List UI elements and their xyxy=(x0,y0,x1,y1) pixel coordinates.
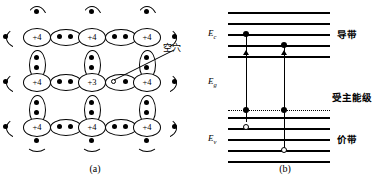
electron xyxy=(34,55,39,60)
electron xyxy=(89,100,94,105)
conduction-band-line xyxy=(228,12,330,14)
lattice-core: +4 xyxy=(133,118,161,137)
electron xyxy=(68,79,73,84)
electron xyxy=(89,110,94,115)
hole-leader-line xyxy=(112,48,192,88)
electron xyxy=(3,79,8,84)
electron xyxy=(112,124,117,129)
electron xyxy=(57,34,62,39)
energy-band-diagram: Ec Eg Ev xyxy=(190,0,380,150)
electron xyxy=(144,110,149,115)
acceptor-level-label: 受主能级 xyxy=(332,90,372,104)
lattice-core: +4 xyxy=(133,28,161,47)
valence-band-label: 价带 xyxy=(337,132,357,146)
energy-label-ev: Ev xyxy=(208,133,216,145)
lattice-core: +4 xyxy=(23,118,51,137)
outer-arc-left xyxy=(6,72,22,94)
outer-arc-left xyxy=(6,27,22,49)
electron xyxy=(144,9,149,14)
panel-a-caption: (a) xyxy=(0,163,190,174)
electron xyxy=(68,34,73,39)
electron xyxy=(57,79,62,84)
conduction-band-label: 导带 xyxy=(337,27,357,41)
electron xyxy=(57,124,62,129)
lattice-diagram: +4 +4 +4 +4 xyxy=(0,0,190,150)
electron-dot-conduction-right xyxy=(281,42,287,48)
electron xyxy=(89,138,94,143)
electron xyxy=(3,34,8,39)
figure-container: +4 +4 +4 +4 xyxy=(0,0,380,176)
energy-label-ec: Ec xyxy=(208,28,216,40)
panel-a-lattice: +4 +4 +4 +4 xyxy=(0,0,190,176)
hole-dot-valence-left xyxy=(243,124,249,130)
electron xyxy=(3,124,8,129)
ev-subscript: v xyxy=(214,138,217,145)
hole-annotation-label: 空穴 xyxy=(163,41,181,54)
electron xyxy=(34,110,39,115)
electron xyxy=(172,34,177,39)
electron xyxy=(144,100,149,105)
conduction-band-line xyxy=(228,23,330,25)
electron xyxy=(34,138,39,143)
electron xyxy=(123,124,128,129)
eg-subscript: g xyxy=(214,81,217,88)
electron xyxy=(112,34,117,39)
ec-subscript: c xyxy=(214,33,217,40)
electron-dot-acceptor-right xyxy=(281,107,287,113)
electron-dot-acceptor-left xyxy=(243,107,249,113)
lattice-core: +4 xyxy=(78,28,106,47)
electron xyxy=(34,100,39,105)
lattice-core-dopant: +3 xyxy=(78,73,106,92)
valence-band-edge-line xyxy=(228,139,330,141)
electron xyxy=(34,65,39,70)
electron xyxy=(89,65,94,70)
valence-band-line xyxy=(228,150,330,152)
electron xyxy=(144,138,149,143)
electron xyxy=(68,124,73,129)
lattice-core: +4 xyxy=(23,28,51,47)
electron-dot-conduction-left xyxy=(243,31,249,37)
transition-arrowhead-right xyxy=(281,50,287,55)
energy-label-eg: Eg xyxy=(208,76,217,88)
valence-band-line xyxy=(228,117,330,119)
electron xyxy=(89,9,94,14)
electron xyxy=(34,9,39,14)
lattice-core: +4 xyxy=(78,118,106,137)
electron xyxy=(89,55,94,60)
conduction-band-line xyxy=(228,45,330,47)
hole-dot-valence-right xyxy=(281,147,287,153)
panel-b-caption: (b) xyxy=(190,163,380,174)
transition-arrowhead-left xyxy=(243,50,249,55)
electron xyxy=(123,34,128,39)
outer-arc-left xyxy=(6,117,22,139)
transition-line-right xyxy=(284,46,285,151)
panel-b-bands: Ec Eg Ev xyxy=(190,0,380,176)
lattice-core: +4 xyxy=(23,73,51,92)
conduction-band-line xyxy=(228,56,330,58)
electron xyxy=(172,124,177,129)
